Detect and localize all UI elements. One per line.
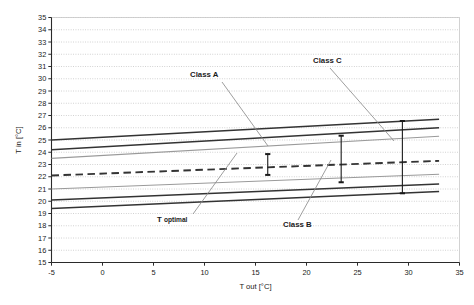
annotation-label: Class A	[190, 70, 219, 79]
y-tick-label: 22	[38, 172, 46, 181]
x-tick-label: 35	[455, 268, 463, 277]
x-tick-label: 25	[353, 268, 361, 277]
x-tick-label: 5	[151, 268, 155, 277]
x-tick-label: 20	[302, 268, 310, 277]
y-tick-label: 17	[38, 234, 46, 243]
annotation-label-sub: optimal	[164, 216, 188, 224]
y-tick-label: 24	[38, 148, 46, 157]
y-tick-label: 20	[38, 197, 46, 206]
x-tick-label: 15	[251, 268, 259, 277]
annotation-label: Class B	[283, 220, 312, 229]
chart-svg: 1516171819202122232425262728293031323334…	[0, 0, 474, 305]
x-tick-label: 30	[404, 268, 412, 277]
y-tick-label: 15	[38, 258, 46, 267]
y-tick-label: 27	[38, 111, 46, 120]
y-tick-label: 21	[38, 185, 46, 194]
y-tick-label: 18	[38, 221, 46, 230]
x-axis-title: T out [°C]	[239, 282, 271, 291]
y-tick-label: 26	[38, 123, 46, 132]
annotation-label: Class C	[313, 56, 342, 65]
y-tick-label: 30	[38, 74, 46, 83]
y-tick-label: 34	[38, 25, 46, 34]
y-tick-label: 35	[38, 13, 46, 22]
annotation-label: Toptimal	[157, 215, 188, 224]
chart-figure: 1516171819202122232425262728293031323334…	[0, 0, 474, 305]
y-axis-title: T in [°C]	[14, 126, 23, 153]
x-tick-label: -5	[48, 268, 55, 277]
y-tick-label: 31	[38, 62, 46, 71]
y-tick-label: 16	[38, 246, 46, 255]
y-tick-label: 33	[38, 38, 46, 47]
y-tick-label: 32	[38, 50, 46, 59]
x-tick-label: 10	[200, 268, 208, 277]
x-tick-label: 0	[100, 268, 104, 277]
y-tick-label: 25	[38, 136, 46, 145]
y-tick-label: 28	[38, 99, 46, 108]
y-tick-label: 19	[38, 209, 46, 218]
y-tick-label: 29	[38, 87, 46, 96]
y-tick-label: 23	[38, 160, 46, 169]
